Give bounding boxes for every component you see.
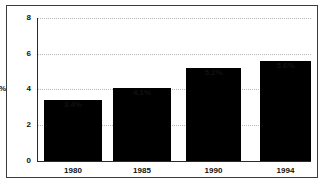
y-axis-tick-label-8: 8 — [27, 13, 31, 22]
bar-1985[interactable] — [113, 88, 171, 161]
bar-1990[interactable] — [186, 68, 241, 161]
x-axis-line — [37, 161, 311, 162]
y-axis-tick-label-2: 2 — [27, 120, 31, 129]
y-axis-title: % — [0, 85, 6, 93]
bar-1994[interactable] — [260, 61, 311, 161]
y-axis-tick-label-4: 4 — [27, 84, 31, 93]
gridline-6 — [38, 54, 311, 55]
y-axis-tick-2: 2 — [9, 121, 31, 129]
y-axis-tick-6: 6 — [9, 50, 31, 58]
bar-value-label-1994: 5.6% — [260, 62, 311, 70]
bar-value-label-1980: 3.4% — [44, 101, 102, 109]
y-axis-tick-4: % 4 — [9, 85, 31, 93]
x-axis-label-1990: 1990 — [186, 167, 241, 175]
bar-value-label-1990: 5.2% — [186, 69, 241, 77]
chart-frame: 8 6 % 4 2 0 3.4% 4.1% 5.2% 5.6% 1980 198… — [6, 5, 318, 178]
plot-area — [38, 18, 311, 161]
x-axis-label-1994: 1994 — [260, 167, 311, 175]
y-axis-tick-label-6: 6 — [27, 49, 31, 58]
gridline-8 — [38, 18, 311, 19]
y-axis-tick-8: 8 — [9, 14, 31, 22]
x-axis-label-1985: 1985 — [113, 167, 171, 175]
y-axis-tick-0: 0 — [9, 157, 31, 165]
bar-1980[interactable] — [44, 100, 102, 161]
bar-value-label-1985: 4.1% — [113, 89, 171, 97]
y-axis-tick-label-0: 0 — [27, 156, 31, 165]
x-axis-label-1980: 1980 — [44, 167, 102, 175]
